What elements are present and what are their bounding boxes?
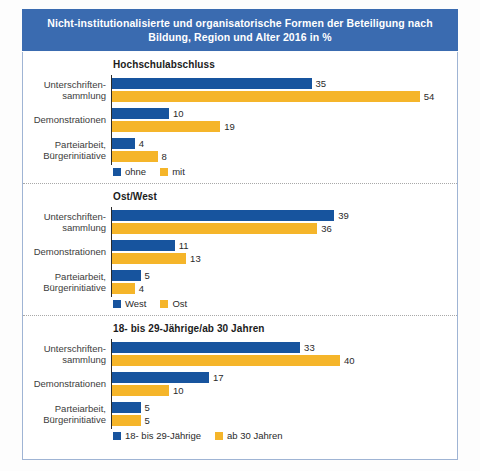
category-label: Parteiarbeit, Bürgerinitiative	[23, 403, 111, 426]
bar-line: 10	[112, 108, 457, 119]
bar-line: 54	[112, 91, 457, 102]
bar-series1	[112, 283, 135, 294]
legend: West Ost	[113, 298, 457, 309]
bar-value: 13	[190, 253, 201, 264]
category-label: Unterschriften- sammlung	[23, 343, 111, 366]
bar-rows: Unterschriften- sammlung 39 36 Demonstra	[23, 207, 457, 297]
panel-title: Hochschulabschluss	[113, 59, 457, 70]
bar-value: 5	[145, 415, 150, 426]
bar-series1	[112, 121, 220, 132]
category-label: Parteiarbeit, Bürgerinitiative	[23, 139, 111, 162]
bar-group: 5 5	[111, 399, 457, 429]
legend-label: ab 30 Jahren	[227, 430, 282, 441]
bar-line: 33	[112, 342, 457, 353]
bar-series1	[112, 151, 158, 162]
bar-line: 35	[112, 78, 457, 89]
bar-line: 5	[112, 415, 457, 426]
bar-line: 5	[112, 270, 457, 281]
legend-swatch-icon	[113, 168, 121, 176]
bar-series1	[112, 223, 317, 234]
bar-row: Demonstrationen 17 10	[23, 369, 457, 399]
bar-rows: Unterschriften- sammlung 35 54 Demonstra	[23, 75, 457, 165]
chart-panel-hochschulabschluss: Hochschulabschluss Unterschriften- samml…	[23, 59, 457, 177]
infographic-root: Nicht-institutionalisierte und organisat…	[0, 0, 480, 471]
bar-value: 17	[213, 372, 224, 383]
bar-series0	[112, 270, 141, 281]
category-label: Unterschriften- sammlung	[23, 79, 111, 102]
bar-value: 5	[145, 402, 150, 413]
bar-group: 33 40	[111, 339, 457, 369]
bar-row: Demonstrationen 11 13	[23, 237, 457, 267]
chart-card: Hochschulabschluss Unterschriften- samml…	[22, 52, 458, 460]
legend: 18- bis 29-Jährige ab 30 Jahren	[113, 430, 457, 441]
bar-group: 4 8	[111, 135, 457, 165]
category-label: Unterschriften- sammlung	[23, 211, 111, 234]
legend-label: ohne	[125, 166, 146, 177]
bar-value: 10	[173, 385, 184, 396]
bar-line: 5	[112, 402, 457, 413]
bar-series0	[112, 402, 141, 413]
legend-label: 18- bis 29-Jährige	[125, 430, 201, 441]
bar-group: 10 19	[111, 105, 457, 135]
bar-value: 11	[179, 240, 189, 251]
bar-series1	[112, 91, 420, 102]
bar-row: Unterschriften- sammlung 35 54	[23, 75, 457, 105]
category-label: Demonstrationen	[23, 378, 111, 390]
legend-label: Ost	[172, 298, 187, 309]
bar-group: 11 13	[111, 237, 457, 267]
bar-series0	[112, 210, 334, 221]
bar-value: 4	[139, 138, 144, 149]
bar-series0	[112, 342, 300, 353]
legend-item: ab 30 Jahren	[215, 430, 282, 441]
bar-group: 35 54	[111, 75, 457, 105]
bar-series1	[112, 415, 141, 426]
bar-group: 17 10	[111, 369, 457, 399]
bar-series1	[112, 253, 186, 264]
legend-swatch-icon	[160, 168, 168, 176]
bar-row: Unterschriften- sammlung 39 36	[23, 207, 457, 237]
category-label: Parteiarbeit, Bürgerinitiative	[23, 271, 111, 294]
bar-series1	[112, 355, 340, 366]
legend-item: West	[113, 298, 146, 309]
bar-value: 40	[344, 355, 355, 366]
bar-value: 8	[162, 151, 167, 162]
bar-line: 4	[112, 283, 457, 294]
bar-series0	[112, 138, 135, 149]
bar-line: 36	[112, 223, 457, 234]
bar-value: 54	[424, 91, 435, 102]
category-label: Demonstrationen	[23, 246, 111, 258]
bar-line: 10	[112, 385, 457, 396]
legend-swatch-icon	[160, 300, 168, 308]
legend-swatch-icon	[215, 432, 223, 440]
bar-line: 4	[112, 138, 457, 149]
panel-title: Ost/West	[113, 191, 457, 202]
bar-value: 39	[338, 210, 349, 221]
bar-line: 8	[112, 151, 457, 162]
bar-line: 40	[112, 355, 457, 366]
bar-series0	[112, 240, 175, 251]
legend-item: mit	[160, 166, 185, 177]
bar-line: 39	[112, 210, 457, 221]
legend-item: 18- bis 29-Jährige	[113, 430, 201, 441]
chart-panel-alter: 18- bis 29-Jährige/ab 30 Jahren Untersch…	[23, 315, 457, 441]
legend-item: Ost	[160, 298, 187, 309]
chart-title: Nicht-institutionalisierte und organisat…	[22, 9, 458, 51]
panel-title: 18- bis 29-Jährige/ab 30 Jahren	[113, 323, 457, 334]
bar-value: 36	[321, 223, 332, 234]
bar-row: Unterschriften- sammlung 33 40	[23, 339, 457, 369]
bar-value: 5	[145, 270, 150, 281]
legend: ohne mit	[113, 166, 457, 177]
bar-line: 13	[112, 253, 457, 264]
bar-value: 4	[139, 283, 144, 294]
bar-row: Parteiarbeit, Bürgerinitiative 5 5	[23, 399, 457, 429]
legend-swatch-icon	[113, 432, 121, 440]
legend-label: mit	[172, 166, 185, 177]
legend-item: ohne	[113, 166, 146, 177]
category-label: Demonstrationen	[23, 114, 111, 126]
bar-row: Parteiarbeit, Bürgerinitiative 4 8	[23, 135, 457, 165]
bar-series1	[112, 385, 169, 396]
chart-panel-ost-west: Ost/West Unterschriften- sammlung 39 36	[23, 183, 457, 309]
bar-line: 19	[112, 121, 457, 132]
bar-value: 10	[173, 108, 184, 119]
legend-swatch-icon	[113, 300, 121, 308]
